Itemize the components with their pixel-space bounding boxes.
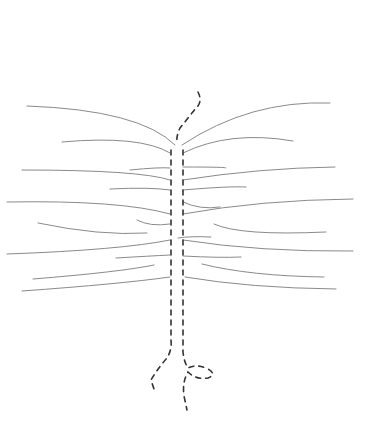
branch-line [27,106,175,145]
branch-line [183,240,353,251]
branch-line [22,170,170,180]
branch-line [178,237,211,238]
branch-line [116,255,170,258]
branch-line [183,167,335,180]
branch-line [183,256,241,257]
branch-line [137,220,170,225]
branch-line [183,199,353,214]
spine-branch-sketch [0,0,378,421]
branch-line [185,277,336,289]
spine-left-rail [151,150,171,392]
branch-line [22,277,170,291]
branch-line [183,167,226,168]
branch-line [183,187,246,190]
branch-lines [7,103,353,291]
branch-line [130,168,170,170]
branch-line [183,202,220,208]
branch-line [214,224,326,233]
branch-line [38,223,147,234]
branch-line [183,137,293,153]
branch-line [62,140,170,153]
branch-line [202,264,324,277]
branch-line [182,103,330,145]
branch-line [7,202,170,214]
branch-line [7,240,170,254]
dashed-spine [151,92,213,410]
branch-line [33,265,154,279]
branch-line [110,188,170,190]
